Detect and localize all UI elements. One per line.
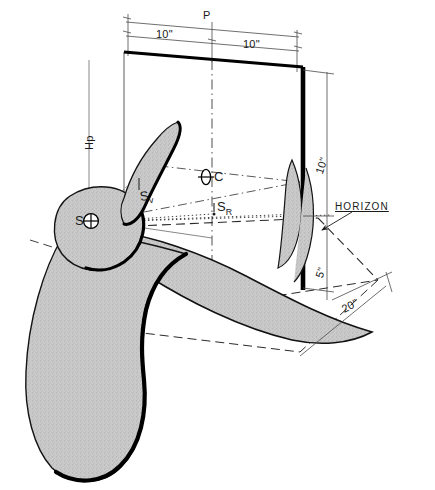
- horizon-label: HORIZON: [335, 202, 389, 212]
- marker-label-station-right: SR: [217, 200, 232, 216]
- sr-subscript: R: [226, 207, 232, 217]
- marker-label-station-vertical: Sv: [139, 188, 154, 206]
- sr-base: S: [217, 199, 226, 214]
- dimension-label-left-half: 10": [156, 29, 173, 40]
- dimension-label-hp: Hp: [84, 136, 95, 150]
- dimension-label-p: P: [203, 10, 211, 21]
- station-right-marker: [213, 203, 216, 216]
- diagram-canvas: P 10" 10" Hp 10" 5" 20" S C Sv SR HORIZO…: [0, 0, 435, 490]
- dimension-label-right-half: 10": [243, 39, 260, 50]
- hp-text: Hp: [83, 136, 95, 150]
- marker-label-station-point: S: [75, 214, 84, 227]
- marker-label-center-of-vision: C: [214, 170, 223, 183]
- station-point-marker: [84, 214, 99, 229]
- sculptural-form: [26, 122, 372, 481]
- perspective-diagram-svg: [0, 0, 435, 490]
- horizon-leader: [322, 212, 352, 230]
